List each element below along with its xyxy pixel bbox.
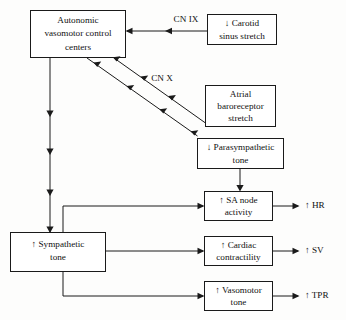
node-label-carotid-line1: ↓ Carotid: [225, 18, 260, 28]
node-label-control-centers-line3: centers: [65, 42, 91, 52]
edge-cardiac-to-sv: [273, 248, 300, 254]
edge-label-cn-ix: CN IX: [174, 14, 199, 24]
node-label-control-centers-line2: vasomotor control: [44, 28, 112, 38]
node-label-vasomotor-line1: ↑ Vasomotor: [215, 285, 262, 295]
node-label-atrial-line3: stretch: [228, 113, 253, 123]
node-label-parasympathetic-line2: tone: [233, 155, 249, 165]
output-label-sv: ↑ SV: [305, 245, 324, 255]
edge-parasympathetic-to-sa-node: [236, 169, 243, 192]
node-label-cardiac-line2: contractility: [216, 252, 261, 262]
node-label-carotid-line2: sinus stretch: [219, 31, 265, 41]
edge-carotid-to-control-centers: [126, 28, 208, 34]
edge-sympathetic-to-cardiac: [106, 248, 205, 254]
edge-sympathetic-to-sa-node: [63, 203, 205, 233]
node-label-cardiac-line1: ↑ Cardiac: [221, 240, 256, 250]
edge-sympathetic-to-vasomotor: [63, 272, 205, 300]
node-label-parasympathetic-line1: ↓ Parasympathetic: [207, 142, 275, 152]
node-label-sa-node-line2: activity: [225, 207, 253, 217]
edge-control-centers-to-parasympathetic: [87, 58, 198, 136]
node-label-control-centers-line1: Autonomic: [57, 15, 98, 25]
edge-control-centers-to-sympathetic: [46, 58, 53, 234]
node-label-sympathetic-line2: tone: [50, 252, 66, 262]
output-label-tpr: ↑ TPR: [305, 290, 329, 300]
node-label-atrial-line1: Atrial: [230, 89, 252, 99]
diagram-canvas: CN IX CN X: [0, 0, 346, 320]
edge-atrial-to-control-centers: [113, 56, 206, 123]
node-label-sympathetic-line1: ↑ Sympathetic: [32, 239, 85, 249]
node-label-sa-node-line1: ↑ SA node: [219, 195, 257, 205]
node-label-atrial-line2: baroreceptor: [217, 101, 263, 111]
node-label-vasomotor-line2: tone: [231, 297, 247, 307]
edge-vasomotor-to-tpr: [273, 293, 300, 299]
flow-diagram: CN IX CN X: [0, 0, 346, 320]
output-label-hr: ↑ HR: [305, 200, 326, 210]
edge-label-cn-x: CN X: [151, 73, 173, 83]
edge-sa-node-to-hr: [273, 203, 300, 209]
